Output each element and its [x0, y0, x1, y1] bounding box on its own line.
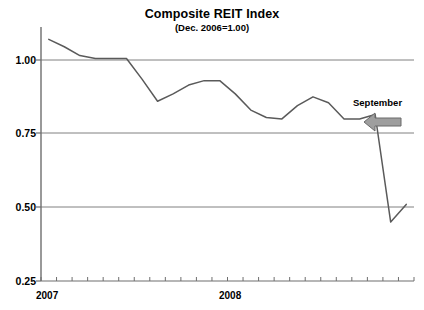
gridlines	[41, 60, 414, 207]
chart-plot-area	[0, 0, 424, 310]
y-axis-ticks	[36, 60, 41, 281]
data-series-composite-reit-index	[49, 39, 406, 222]
chart-container: Composite REIT Index (Dec. 2006=1.00) 1.…	[0, 0, 424, 310]
